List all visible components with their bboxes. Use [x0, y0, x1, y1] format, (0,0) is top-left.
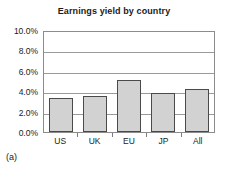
x-tick-label: UK [77, 136, 111, 150]
x-tick-label: JP [146, 136, 180, 150]
bar-slot [180, 32, 214, 132]
y-tick-label: 2.0% [19, 108, 38, 118]
bar[interactable] [151, 93, 175, 132]
x-axis-tick-labels: USUKEUJPAll [43, 136, 215, 150]
bars-layer [44, 32, 214, 132]
bar[interactable] [49, 98, 73, 132]
bar-slot [78, 32, 112, 132]
y-tick-label: 4.0% [19, 87, 38, 97]
x-tick-label: EU [112, 136, 146, 150]
chart-container: Earnings yield by country 10.0%8.0%6.0%4… [0, 0, 228, 171]
plot-area [43, 31, 215, 133]
y-tick-label: 10.0% [14, 26, 38, 36]
y-tick-label: 0.0% [19, 128, 38, 138]
y-tick-label: 6.0% [19, 67, 38, 77]
bar-slot [44, 32, 78, 132]
bar[interactable] [185, 89, 209, 132]
x-tick-label: All [181, 136, 215, 150]
bar-slot [112, 32, 146, 132]
figure-caption: (a) [6, 152, 17, 162]
bar-slot [146, 32, 180, 132]
y-axis-tick-labels: 10.0%8.0%6.0%4.0%2.0%0.0% [0, 0, 41, 171]
y-tick-label: 8.0% [19, 46, 38, 56]
bar[interactable] [117, 80, 141, 132]
bar[interactable] [83, 96, 107, 132]
x-tick-label: US [43, 136, 77, 150]
